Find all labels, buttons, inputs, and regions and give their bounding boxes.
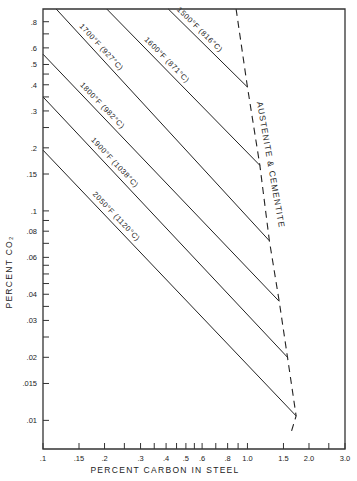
y-tick-label: .15 [27, 170, 37, 179]
y-tick-label: .2 [31, 144, 37, 153]
y-tick-label: .6 [31, 44, 37, 53]
temperature-line [107, 9, 260, 165]
x-tick-label: .2 [101, 454, 107, 463]
austenite-cementite-boundary [236, 9, 296, 435]
temperature-labels: 1500°F (816°C)1600°F (871°C)1700°F (927°… [78, 5, 225, 243]
co2-carbon-equilibrium-chart: .8.6.5.4.3.2.15.1.08.06.04.03.02.015.01 … [0, 0, 357, 481]
y-tick-label: .3 [31, 107, 37, 116]
y-tick-label: .4 [31, 81, 37, 90]
x-tick-label: .8 [225, 454, 231, 463]
y-tick-label: .03 [27, 316, 37, 325]
y-tick-label: .1 [31, 207, 37, 216]
y-tick-label: .01 [27, 416, 37, 425]
x-tick-label: .15 [74, 454, 84, 463]
y-tick-label: .06 [27, 253, 37, 262]
temperature-lines [43, 9, 296, 416]
x-tick-label: .3 [137, 454, 143, 463]
y-axis-label: PERCENT CO₂ [4, 235, 14, 308]
x-axis-label: PERCENT CARBON IN STEEL [90, 465, 239, 475]
x-tick-label: .6 [199, 454, 205, 463]
y-tick-label: .04 [27, 290, 37, 299]
y-tick-label: .02 [27, 353, 37, 362]
plot-frame [43, 9, 345, 449]
x-tick-label: .4 [163, 454, 169, 463]
temperature-line [43, 150, 296, 416]
temperature-line [43, 97, 288, 357]
x-tick-label: 3.0 [340, 454, 350, 463]
x-tick-label: 2.0 [304, 454, 314, 463]
y-tick-label: .015 [22, 379, 37, 388]
temperature-label: 1800°F (982°C) [78, 80, 126, 130]
temperature-label: 1700°F (927°C) [78, 22, 126, 73]
temperature-line [43, 54, 279, 301]
temperature-label: 1900°F (1038°C) [89, 136, 140, 190]
temperature-label: 1600°F (871°C) [143, 35, 192, 85]
x-axis-ticks: .1.15.2.3.4.5.6.81.01.52.03.0 [40, 443, 350, 463]
x-tick-label: 1.0 [242, 454, 252, 463]
x-tick-label: .5 [183, 454, 189, 463]
temperature-label: 1500°F (816°C) [175, 5, 225, 54]
y-axis-ticks: .8.6.5.4.3.2.15.1.08.06.04.03.02.015.01 [22, 18, 49, 426]
y-tick-label: .08 [27, 227, 37, 236]
y-tick-label: .5 [31, 60, 37, 69]
x-tick-label: .1 [40, 454, 46, 463]
temperature-label: 2050°F (1120°C) [91, 190, 142, 243]
x-tick-label: 1.5 [278, 454, 288, 463]
temperature-line [56, 9, 269, 241]
y-tick-label: .8 [31, 18, 37, 27]
